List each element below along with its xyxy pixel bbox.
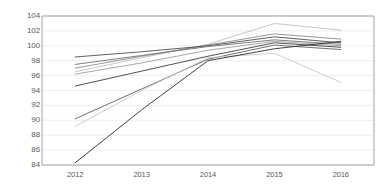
- x-axis-tick-label: 2012: [55, 171, 95, 179]
- x-axis-tick-label: 2013: [122, 171, 162, 179]
- x-axis: 20122013201420152016: [0, 0, 382, 191]
- line-chart: 1041021009896949290888684 20122013201420…: [0, 0, 382, 191]
- x-axis-tick-label: 2014: [188, 171, 228, 179]
- x-axis-tick-label: 2016: [321, 171, 361, 179]
- x-axis-tick-label: 2015: [254, 171, 294, 179]
